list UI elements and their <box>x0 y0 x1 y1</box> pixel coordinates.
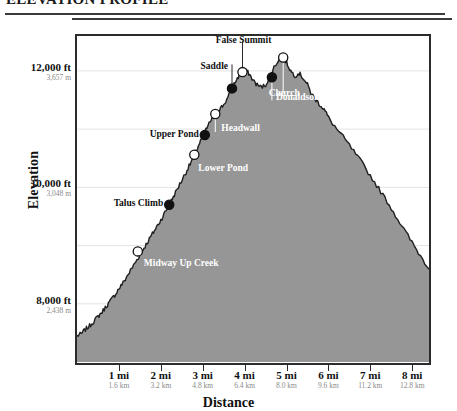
header-rule-top <box>5 13 445 15</box>
y-tick-feet: 10,000 ft <box>5 178 71 189</box>
x-axis-tick-8: 8 mi12.8 km <box>384 369 440 391</box>
waypoint-label-upper-pond: Upper Pond <box>150 129 199 139</box>
elevation-profile-figure: Elevation 12,000 ft3,657 m10,000 ft3,048… <box>0 22 457 399</box>
x-tick-kilometers: 12.8 km <box>384 381 440 391</box>
elevation-area-fill <box>77 56 429 362</box>
waypoint-marker-headwall[interactable] <box>211 109 220 118</box>
y-tick-feet: 12,000 ft <box>5 62 71 73</box>
x-axis-title: Distance <box>0 395 457 411</box>
waypoint-marker-church[interactable] <box>279 53 288 62</box>
y-tick-meters: 3,048 m <box>5 189 71 198</box>
header-title-clip: ELEVATION PROFILE <box>0 0 457 14</box>
waypoint-label-headwall: Headwall <box>221 123 260 133</box>
x-axis-line <box>75 363 431 365</box>
y-axis-tick-8000: 8,000 ft2,438 m <box>5 295 71 315</box>
waypoint-marker-lower-pond[interactable] <box>190 150 199 159</box>
page-title: ELEVATION PROFILE <box>6 0 169 8</box>
header-rule-bottom <box>72 18 452 20</box>
waypoint-label-false-summit: False Summit <box>216 35 272 45</box>
waypoint-marker-upper-pond[interactable] <box>200 130 209 139</box>
waypoint-marker-saddle[interactable] <box>227 84 236 93</box>
waypoint-label-church: Church <box>269 88 300 98</box>
y-tick-meters: 2,438 m <box>5 306 71 315</box>
waypoint-marker-false-summit[interactable] <box>238 68 247 77</box>
plot-area: Midway Up CreekTalus ClimbLower PondUppe… <box>75 34 431 364</box>
waypoint-marker-talus-climb[interactable] <box>165 200 174 209</box>
waypoint-label-talus-climb: Talus Climb <box>114 198 164 208</box>
x-tick-miles: 8 mi <box>384 369 440 381</box>
y-tick-meters: 3,657 m <box>5 73 71 82</box>
y-axis-tick-12000: 12,000 ft3,657 m <box>5 62 71 82</box>
y-axis-tick-10000: 10,000 ft3,048 m <box>5 178 71 198</box>
waypoint-marker-midway-up-creek[interactable] <box>133 247 142 256</box>
waypoint-label-lower-pond: Lower Pond <box>198 163 248 173</box>
waypoint-label-saddle: Saddle <box>201 61 228 71</box>
y-tick-feet: 8,000 ft <box>5 295 71 306</box>
waypoint-marker-donaldson[interactable] <box>267 73 276 82</box>
waypoint-label-midway-up-creek: Midway Up Creek <box>144 258 219 268</box>
